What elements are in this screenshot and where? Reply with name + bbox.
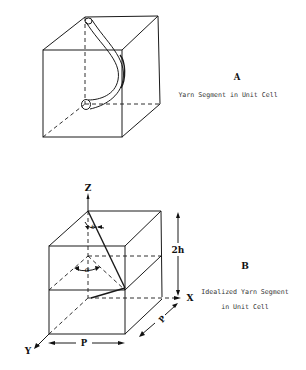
height-label: 2h [172, 245, 185, 255]
figure-a-unit-cell [43, 16, 160, 137]
width-label: P [81, 338, 88, 348]
z-axis-label: Z [85, 183, 92, 193]
y-axis-label: Y [24, 346, 32, 356]
theta-label: θ [91, 223, 95, 230]
yarn-segment [82, 18, 125, 110]
x-arrow-icon [174, 296, 181, 300]
figure-a-caption: Yarn Segment in Unit Cell [178, 91, 277, 99]
alpha-label: α [85, 266, 90, 274]
figure-a-label: A [233, 72, 241, 82]
figure-b-caption-line2: in Unit Cell [221, 303, 269, 311]
depth-label: P [156, 313, 167, 324]
y-axis [37, 334, 49, 346]
figure-b-unit-cell [34, 193, 181, 349]
x-axis-label: X [187, 293, 194, 303]
z-arrow-icon [87, 193, 90, 199]
figure-b-caption-line1: Idealized Yarn Segment [201, 288, 288, 296]
diagram-canvas: A Yarn Segment in Unit Cell [0, 0, 306, 370]
figure-b-label: B [241, 261, 249, 271]
